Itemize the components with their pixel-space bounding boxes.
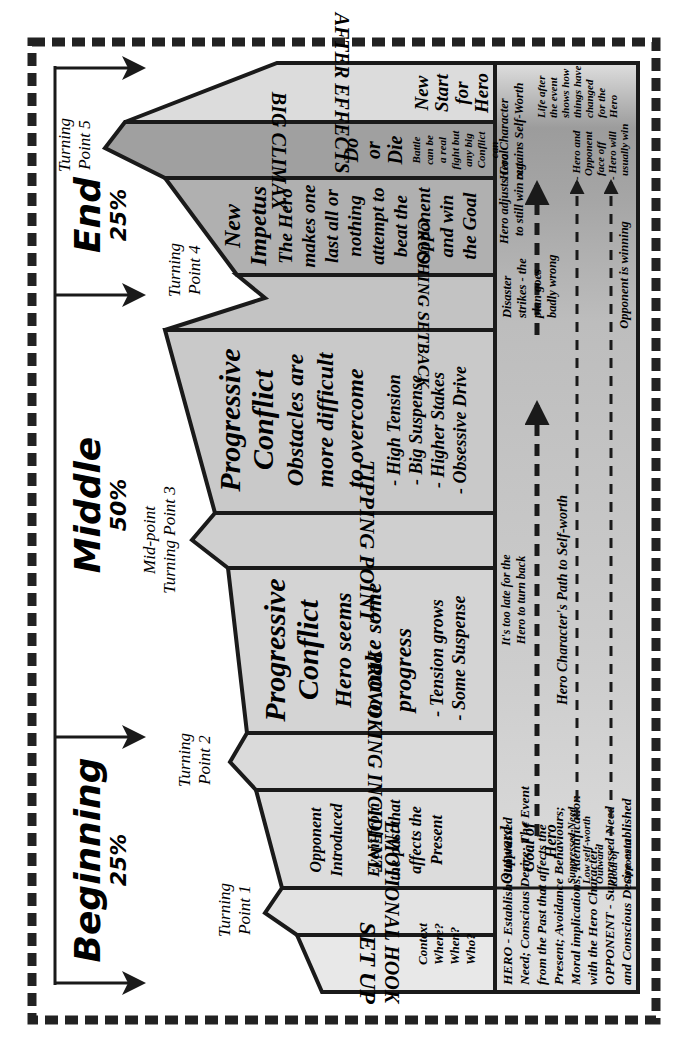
svg-text:- Some Suspense: - Some Suspense	[449, 595, 469, 720]
stage-crushing-setback	[165, 275, 495, 330]
svg-text:a real: a real	[436, 136, 448, 163]
act-middle: Middle 50%	[67, 437, 131, 573]
svg-text:Life after: Life after	[535, 75, 547, 119]
stage-tipping-point	[192, 513, 495, 568]
opponent-winning: Opponent is winning	[617, 221, 631, 329]
svg-text:End: End	[67, 176, 108, 253]
svg-text:changed: changed	[583, 79, 595, 118]
svg-text:strikes - the: strikes - the	[515, 258, 529, 319]
svg-text:Point 4: Point 4	[185, 245, 204, 296]
svg-text:Introduced: Introduced	[328, 803, 345, 878]
svg-text:- Higher Stakes: - Higher Stakes	[428, 372, 448, 488]
svg-text:It's too late for the: It's too late for the	[499, 554, 513, 647]
svg-text:25%: 25%	[106, 834, 131, 887]
svg-text:Who?: Who?	[463, 933, 478, 965]
svg-text:New: New	[411, 75, 432, 111]
svg-text:affects the: affects the	[407, 806, 425, 874]
svg-text:Turning: Turning	[215, 883, 234, 937]
svg-text:makes one: makes one	[298, 184, 319, 267]
too-late-text: It's too late for the Hero to turn back	[499, 554, 528, 647]
svg-text:Point 5: Point 5	[75, 120, 94, 171]
svg-text:Need; Conscious Desire; The Ev: Need; Conscious Desire; The Event	[517, 785, 532, 986]
svg-text:usually win: usually win	[618, 124, 630, 176]
svg-text:Suppressed Need: Suppressed Need	[565, 806, 577, 884]
svg-text:Turning: Turning	[175, 733, 194, 787]
svg-text:Hero: Hero	[542, 824, 559, 859]
svg-text:Where?: Where?	[431, 923, 446, 965]
svg-text:Outward: Outward	[498, 825, 515, 884]
svg-text:Opponent: Opponent	[621, 838, 633, 884]
act-beginning: Beginning 25%	[67, 758, 131, 963]
set-up-title: SET UP	[355, 922, 381, 1004]
svg-text:shows how: shows how	[559, 68, 571, 119]
story-structure-diagram: Beginning 25% Middle 50% End 25% Turning…	[0, 0, 674, 1048]
svg-text:Turning: Turning	[165, 243, 184, 297]
svg-text:Point 2: Point 2	[195, 735, 214, 786]
svg-text:Hero: Hero	[607, 94, 619, 119]
svg-text:face off: face off	[594, 140, 606, 176]
svg-text:Conflict: Conflict	[475, 131, 487, 169]
svg-text:Outward: Outward	[593, 844, 605, 884]
svg-text:When?: When?	[447, 926, 462, 965]
new-impetus-text: New Impetus The Hero makes one last all …	[219, 184, 480, 267]
svg-text:Present: Present	[428, 815, 445, 866]
after-effects-title: AFTER EFFECTS	[331, 11, 353, 174]
svg-text:Battle: Battle	[410, 136, 422, 164]
svg-text:- Hero and: - Hero and	[570, 130, 582, 180]
svg-text:Die: Die	[384, 135, 406, 165]
svg-text:Turning Point 3: Turning Point 3	[160, 486, 179, 594]
svg-text:Opponent: Opponent	[307, 807, 325, 872]
svg-text:for the: for the	[595, 88, 607, 118]
svg-text:things have: things have	[571, 66, 583, 118]
after-effects-text: New Start for Hero	[411, 73, 492, 114]
svg-text:Disaster: Disaster	[500, 276, 514, 320]
svg-text:nothing: nothing	[344, 195, 365, 256]
svg-text:- Big Suspense: - Big Suspense	[406, 375, 426, 485]
svg-text:the event: the event	[547, 76, 559, 118]
svg-text:Hero: Hero	[471, 73, 492, 114]
svg-text:beat the: beat the	[390, 195, 411, 257]
turning-point-2: Turning Point 2	[175, 733, 214, 787]
svg-text:Point 1: Point 1	[235, 885, 254, 936]
svg-text:Hero seems: Hero seems	[330, 592, 356, 708]
svg-text:Start: Start	[431, 73, 452, 112]
svg-text:regains Self-Worth: regains Self-Worth	[512, 83, 526, 180]
svg-text:to overcome: to overcome	[342, 368, 368, 488]
svg-text:Progressive: Progressive	[258, 578, 291, 722]
svg-text:the past that: the past that	[386, 799, 404, 880]
path-to-self-worth: Hero Character's Path to Self-worth	[555, 495, 570, 706]
svg-text:Beginning: Beginning	[67, 758, 108, 963]
svg-text:more difficult: more difficult	[312, 351, 338, 487]
svg-text:Obstacles are: Obstacles are	[282, 353, 308, 486]
svg-text:25%: 25%	[106, 189, 131, 242]
svg-text:Opponent: Opponent	[582, 130, 594, 176]
svg-text:Impetus: Impetus	[245, 186, 271, 267]
stage-provoking-incident	[230, 733, 495, 790]
svg-text:Opponent: Opponent	[413, 187, 434, 265]
svg-text:- Hero will: - Hero will	[606, 130, 618, 180]
svg-text:50%: 50%	[106, 479, 131, 532]
svg-text:and win: and win	[436, 195, 457, 258]
svg-text:badly wrong: badly wrong	[545, 254, 559, 318]
svg-text:Middle: Middle	[67, 437, 108, 573]
svg-text:Mid-point: Mid-point	[140, 505, 159, 575]
turning-point-1: Turning Point 1	[215, 883, 254, 937]
svg-text:can be: can be	[423, 135, 435, 165]
svg-text:fight but: fight but	[449, 130, 461, 170]
big-climax-title: BIG CLIMAX	[268, 91, 290, 211]
svg-text:Low self-worth: Low self-worth	[580, 816, 592, 885]
turning-point-3: Mid-point Turning Point 3	[140, 486, 179, 594]
svg-text:progress: progress	[390, 628, 416, 714]
svg-text:Context: Context	[415, 923, 430, 965]
turning-point-5: Turning Point 5	[55, 118, 94, 172]
svg-text:New: New	[219, 203, 245, 249]
svg-text:attempt to: attempt to	[367, 187, 388, 265]
svg-text:the Goal: the Goal	[459, 192, 480, 260]
svg-text:any big: any big	[462, 133, 474, 167]
turning-point-4: Turning Point 4	[165, 243, 204, 297]
svg-text:Conflict: Conflict	[246, 368, 279, 470]
svg-text:Hero to turn back: Hero to turn back	[514, 556, 528, 645]
svg-text:last all or: last all or	[321, 188, 342, 263]
svg-text:Goal of: Goal of	[607, 849, 619, 884]
svg-text:Hero Character: Hero Character	[497, 98, 511, 181]
